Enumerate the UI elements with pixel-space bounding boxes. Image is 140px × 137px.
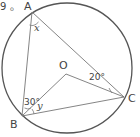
point-label-b: B [10,118,18,131]
segment-bo [22,74,66,116]
point-label-a: A [24,0,32,13]
angle-arc-30 [25,108,32,109]
point-label-c: C [128,92,136,105]
segment-ac [32,12,124,97]
angle-arc-20 [109,88,112,93]
geometry-figure: 9 。 A B C O x 20° 30° y [0,0,140,137]
angle-label-20deg: 20° [89,72,105,82]
point-label-o: O [59,59,68,72]
angle-label-x: x [34,22,40,33]
problem-number-fragment: 9 。 [0,1,20,12]
angle-arc-y [32,109,34,114]
angle-label-y: y [36,100,43,111]
